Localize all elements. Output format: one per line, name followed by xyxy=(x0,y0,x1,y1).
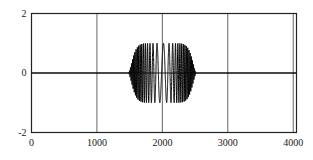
x-tick-label: 3000 xyxy=(218,138,238,148)
y-tick-label: 2 xyxy=(0,9,27,19)
y-tick-label: 0 xyxy=(0,68,27,78)
chart-figure: 01000200030004000 -202 xyxy=(0,0,313,160)
x-tick-label: 0 xyxy=(29,138,34,148)
x-tick-label: 1000 xyxy=(87,138,107,148)
y-tick-label: -2 xyxy=(0,128,27,138)
x-tick-label: 4000 xyxy=(283,138,303,148)
x-tick-label: 2000 xyxy=(152,138,172,148)
